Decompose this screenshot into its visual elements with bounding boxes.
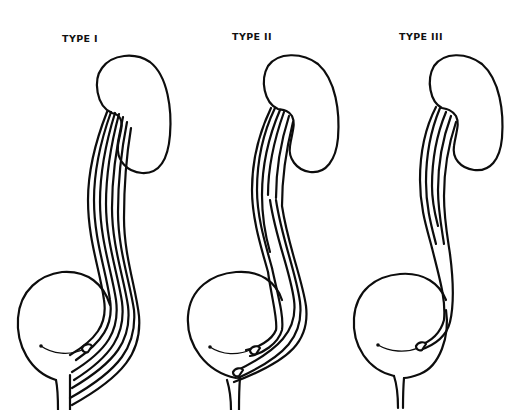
panel-type-1 — [18, 56, 171, 410]
ureters-type-2 — [234, 108, 307, 382]
ureteric-orifice-type-2 — [208, 345, 212, 349]
panel-type-2 — [188, 55, 339, 410]
ureteric-orifice-type-1 — [39, 344, 43, 348]
bladder-type-3 — [354, 274, 446, 376]
ureters-type-3 — [418, 107, 456, 350]
interureteric-ridge-type-3 — [378, 345, 418, 351]
ureteric-orifice-type-3 — [376, 343, 380, 347]
ureter-duplication-diagram — [0, 0, 531, 410]
panel-type-3 — [354, 55, 503, 408]
ureters-type-1 — [70, 112, 139, 405]
kidney-type-1 — [97, 56, 170, 173]
kidney-type-2 — [264, 55, 339, 172]
